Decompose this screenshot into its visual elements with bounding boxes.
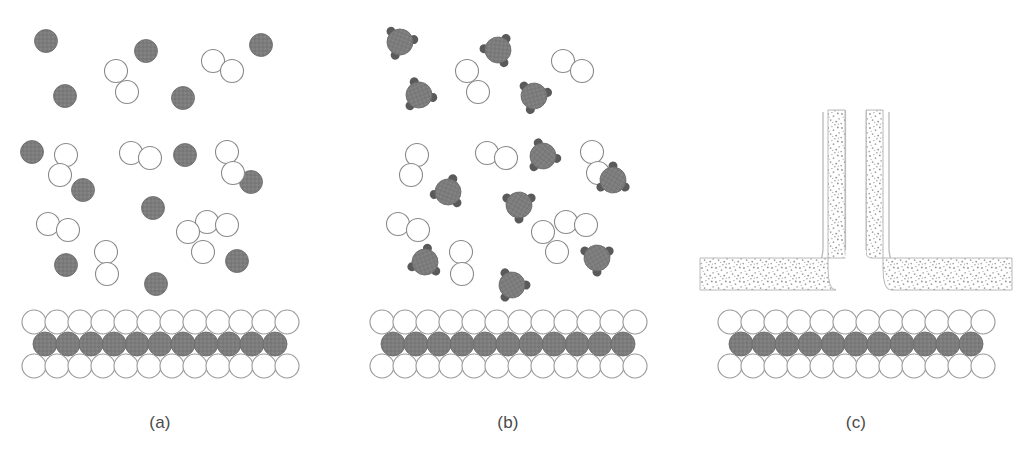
figure-container: (a) xyxy=(0,0,1025,453)
open-circle xyxy=(221,60,244,83)
open-circle xyxy=(451,263,474,286)
open-circle xyxy=(581,141,604,164)
open-circle xyxy=(387,213,410,236)
open-circle xyxy=(95,241,118,264)
open-circle xyxy=(105,60,128,83)
column-gap xyxy=(846,109,866,259)
gray-atom xyxy=(54,85,77,108)
open-circle xyxy=(532,221,555,244)
substrate-row-middle-gray xyxy=(33,332,287,356)
schematic-svg: (a) xyxy=(0,0,1025,453)
substrate-a xyxy=(22,310,299,378)
open-circle xyxy=(406,144,429,167)
open-circle xyxy=(546,241,569,264)
substrate-row-middle-gray xyxy=(381,332,635,356)
open-circle xyxy=(57,219,80,242)
open-circle xyxy=(49,164,72,187)
open-circle xyxy=(177,221,200,244)
open-circle xyxy=(495,147,518,170)
open-circle xyxy=(216,214,239,237)
panel-label-b: (b) xyxy=(497,413,518,432)
open-circle xyxy=(575,214,598,237)
substrate-row-middle-gray xyxy=(729,332,983,356)
open-circle xyxy=(467,81,490,104)
panel-label-c: (c) xyxy=(846,413,866,432)
substrate-c xyxy=(718,310,995,378)
open-circle xyxy=(96,263,119,286)
open-circle xyxy=(571,60,594,83)
gray-atom xyxy=(55,254,78,277)
panel-label-a: (a) xyxy=(149,413,170,432)
open-circle xyxy=(407,219,430,242)
gray-atom xyxy=(21,141,44,164)
open-circle xyxy=(222,162,245,185)
gray-atom xyxy=(72,179,95,202)
open-circle xyxy=(456,60,479,83)
open-circle xyxy=(555,211,578,234)
open-circle xyxy=(116,81,139,104)
open-circle xyxy=(139,147,162,170)
open-circle xyxy=(400,164,423,187)
open-circle xyxy=(55,144,78,167)
open-circle xyxy=(192,241,215,264)
gray-atom xyxy=(172,87,195,110)
gray-atom xyxy=(142,197,165,220)
open-circle xyxy=(450,241,473,264)
gray-atom xyxy=(135,40,158,63)
gray-atom xyxy=(226,250,249,273)
gray-atom xyxy=(35,30,58,53)
gray-atom xyxy=(145,273,168,296)
substrate-b xyxy=(370,310,647,378)
open-circle xyxy=(216,141,239,164)
open-circle xyxy=(37,213,60,236)
gray-atom xyxy=(250,34,273,57)
gray-atom xyxy=(174,144,197,167)
